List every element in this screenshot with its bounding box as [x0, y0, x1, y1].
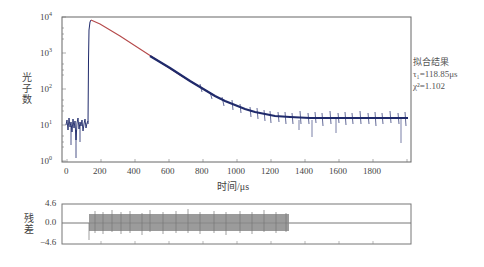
decay-plot-frame [62, 17, 411, 162]
ytick-1e2: 102 [40, 83, 52, 94]
xtick-1600: 1600 [329, 166, 347, 176]
fit-tau: τ₁=118.85μs [413, 68, 458, 80]
x-axis-label: 时间/μs [217, 178, 249, 193]
fit-chi-square: χ²=1.102 [413, 80, 458, 92]
rise-edge [88, 20, 91, 124]
xtick-200: 200 [93, 166, 107, 176]
residual-band [89, 214, 289, 231]
xtick-800: 800 [195, 166, 209, 176]
res-tick-bottom: −4.6 [40, 237, 56, 247]
fit-result-title: 拟合结果 [413, 56, 458, 68]
y-axis-ticks [62, 17, 66, 161]
ytick-1e4: 104 [40, 11, 52, 22]
y-axis-label: 光子数 [18, 72, 33, 105]
xtick-1000: 1000 [227, 166, 245, 176]
ytick-1e0: 100 [40, 155, 52, 166]
xtick-0: 0 [64, 166, 69, 176]
figure [0, 0, 484, 267]
res-tick-zero: 0.0 [45, 217, 56, 227]
xtick-1400: 1400 [295, 166, 313, 176]
residual-axis-label: 残差 [20, 213, 35, 235]
res-tick-top: 4.6 [45, 198, 56, 208]
decay-data [150, 56, 408, 118]
baseline-noise [66, 118, 88, 140]
ytick-1e1: 101 [40, 119, 52, 130]
xtick-1800: 1800 [363, 166, 381, 176]
xtick-400: 400 [127, 166, 141, 176]
fit-result-annotation: 拟合结果 τ₁=118.85μs χ²=1.102 [413, 56, 458, 92]
xtick-1200: 1200 [261, 166, 279, 176]
ytick-1e3: 103 [40, 47, 52, 58]
xtick-600: 600 [161, 166, 175, 176]
